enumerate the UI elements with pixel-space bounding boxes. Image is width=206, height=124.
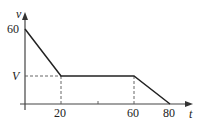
x-axis-label: t bbox=[189, 108, 192, 120]
velocity-time-graph bbox=[0, 0, 206, 124]
y-axis-arrow-icon bbox=[22, 12, 28, 20]
x-tick-60: 60 bbox=[127, 107, 139, 119]
x-tick-20: 20 bbox=[54, 107, 66, 119]
x-tick-80: 80 bbox=[163, 107, 175, 119]
y-tick-V: V bbox=[12, 70, 19, 82]
y-axis-label: v bbox=[16, 8, 21, 20]
y-tick-60: 60 bbox=[7, 23, 19, 35]
velocity-line bbox=[25, 29, 170, 104]
